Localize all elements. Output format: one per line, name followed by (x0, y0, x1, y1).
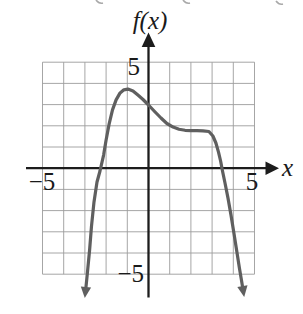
y-axis-tick-label-neg5: −5 (117, 260, 144, 287)
y-axis-arrowhead (142, 33, 156, 48)
function-curve (86, 89, 242, 287)
figure-canvas: f(x) 5 −5 −5 5 x (0, 0, 303, 314)
x-axis-arrowhead (266, 161, 280, 175)
curve-left-arrowhead (81, 286, 91, 298)
x-axis-label: x (281, 154, 293, 181)
text-fragment (96, 0, 103, 3)
text-fragment (276, 1, 283, 4)
curve-right-arrowhead (237, 285, 247, 297)
text-fragment (183, 0, 190, 3)
generated-plot-layers (26, 0, 283, 298)
y-axis-tick-label-5: 5 (128, 53, 141, 80)
function-label: f(x) (133, 7, 168, 35)
x-axis-tick-label-5: 5 (246, 168, 259, 195)
function-plot: f(x) 5 −5 −5 5 x (0, 0, 303, 314)
cropped-text-fragments (96, 0, 283, 4)
x-axis-tick-label-neg5: −5 (29, 168, 56, 195)
